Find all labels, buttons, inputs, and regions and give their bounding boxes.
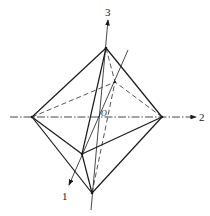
vertex-front: [81, 153, 84, 156]
axis-1-line: [69, 50, 128, 185]
edge-top-front: [82, 48, 106, 154]
axis-1-label: 1: [62, 190, 68, 202]
vertex-right: [161, 116, 164, 119]
vertex-bottom: [91, 192, 94, 195]
origin-label: O: [101, 109, 107, 118]
edge-top-left: [32, 48, 106, 117]
edge-bottom-back: [92, 82, 115, 193]
axis-2-label: 2: [199, 111, 205, 123]
octahedron-diagram: 3 2 1 O: [0, 0, 210, 216]
edge-bottom-left: [32, 117, 92, 193]
edge-right-front: [82, 117, 162, 154]
vertex-top: [105, 47, 108, 50]
axis-3-label: 3: [105, 6, 111, 18]
vertex-left: [31, 116, 34, 119]
edge-bottom-right: [92, 117, 162, 193]
vertex-back: [114, 81, 116, 83]
